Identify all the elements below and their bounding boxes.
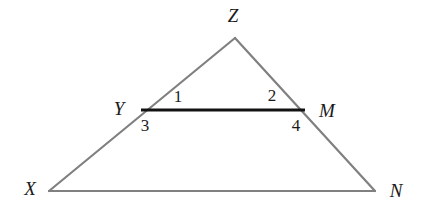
triangle-diagram-svg (0, 0, 424, 216)
angle-label-1: 1 (174, 88, 183, 105)
vertex-label-n: N (390, 181, 403, 200)
triangle-side-xz (49, 38, 235, 191)
geometry-figure: Z Y M X N 1 2 3 4 (0, 0, 424, 216)
triangle-side-zn (235, 38, 375, 191)
angle-label-2: 2 (268, 87, 277, 104)
angle-label-3: 3 (141, 117, 150, 134)
vertex-label-z: Z (228, 6, 239, 25)
vertex-label-m: M (319, 101, 335, 120)
angle-label-4: 4 (292, 117, 301, 134)
vertex-label-x: X (24, 179, 36, 198)
vertex-label-y: Y (114, 99, 125, 118)
